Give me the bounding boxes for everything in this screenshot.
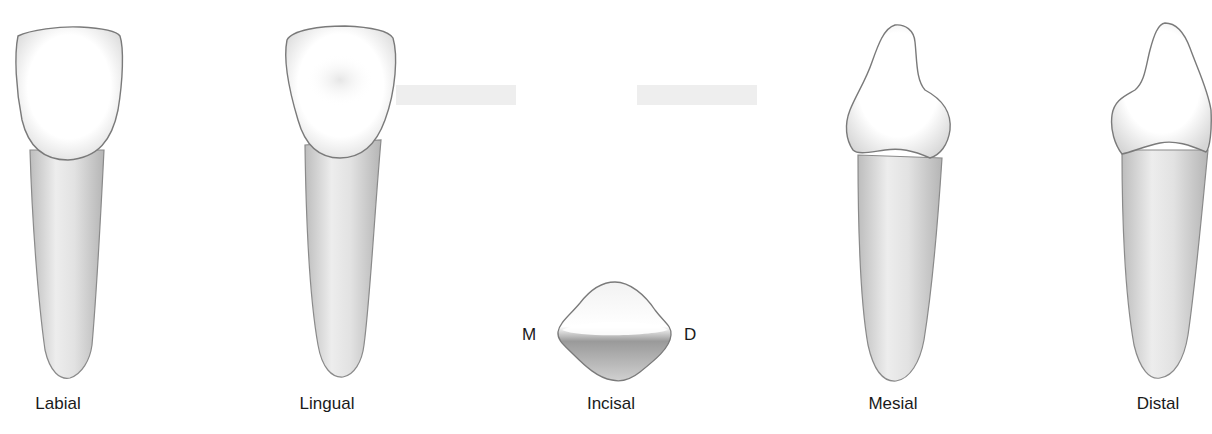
tooth-illustration xyxy=(0,0,1212,434)
root-mesial xyxy=(858,155,942,381)
root-distal xyxy=(1122,150,1208,378)
tooth-labial-view xyxy=(16,27,123,378)
crown-distal xyxy=(1112,23,1212,154)
distal-marker: D xyxy=(684,326,696,343)
mesial-marker: M xyxy=(522,326,536,343)
tooth-distal-view xyxy=(1112,23,1212,378)
crown-mesial xyxy=(846,25,950,158)
tooth-lingual-view xyxy=(286,26,396,377)
crown-labial xyxy=(16,27,123,160)
label-mesial: Mesial xyxy=(868,395,917,412)
tooth-incisal-view xyxy=(558,282,671,381)
root-lingual xyxy=(305,140,381,377)
label-labial: Labial xyxy=(35,395,80,412)
background-artifacts xyxy=(396,85,757,105)
lingual-fossa xyxy=(306,54,374,106)
label-incisal: Incisal xyxy=(587,395,635,412)
tooth-mesial-view xyxy=(846,25,950,381)
label-lingual: Lingual xyxy=(300,395,355,412)
label-distal: Distal xyxy=(1137,395,1180,412)
root-labial xyxy=(30,150,104,378)
